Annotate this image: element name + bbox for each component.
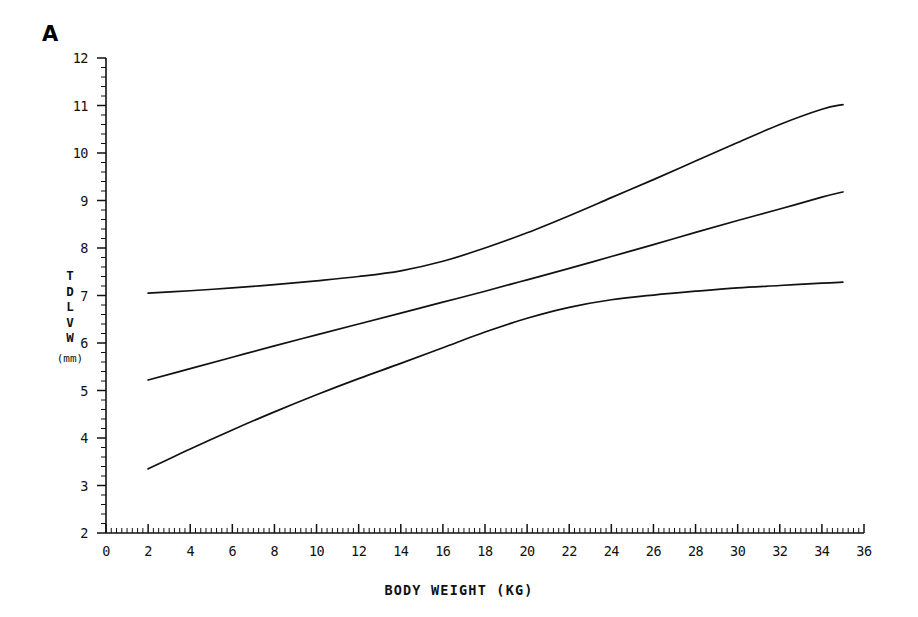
x-axis-title: BODY WEIGHT (KG) [0, 582, 918, 598]
x-axis-tick-label: 6 [212, 543, 252, 559]
x-axis-tick-label: 0 [86, 543, 126, 559]
plot-area [106, 58, 864, 533]
plot-svg [106, 58, 864, 533]
x-axis-tick-label: 34 [802, 543, 842, 559]
x-axis-tick-label: 22 [549, 543, 589, 559]
x-axis-tick-label: 26 [633, 543, 673, 559]
x-axis-tick-label: 2 [128, 543, 168, 559]
x-axis-tick-label: 12 [339, 543, 379, 559]
x-axis-tick-label: 18 [465, 543, 505, 559]
figure-panel-a: A T D L V W (mm) BODY WEIGHT (KG) 121110… [0, 0, 918, 617]
x-axis-tick-label: 28 [676, 543, 716, 559]
y-axis-tick-label: 7 [48, 288, 88, 304]
y-axis-tick-label: 2 [48, 525, 88, 541]
y-axis-title-char: T [49, 268, 91, 284]
x-axis-tick-label: 32 [760, 543, 800, 559]
y-axis-title-char: V [49, 315, 91, 331]
y-axis-unit: (mm) [49, 351, 91, 367]
x-axis-tick-label: 36 [844, 543, 884, 559]
x-axis-tick-label: 24 [591, 543, 631, 559]
y-axis-tick-label: 6 [48, 335, 88, 351]
y-axis-tick-label: 5 [48, 383, 88, 399]
x-axis-tick-label: 14 [381, 543, 421, 559]
x-axis-tick-label: 8 [254, 543, 294, 559]
y-axis-title: T D L V W (mm) [49, 268, 91, 366]
x-axis-tick-label: 10 [297, 543, 337, 559]
y-axis-tick-label: 3 [48, 478, 88, 494]
x-axis-tick-label: 20 [507, 543, 547, 559]
y-axis-tick-label: 8 [48, 240, 88, 256]
x-axis-tick-label: 30 [718, 543, 758, 559]
y-axis-tick-label: 10 [48, 145, 88, 161]
data-curve-upper [148, 105, 843, 294]
panel-label: A [42, 22, 58, 46]
y-axis-tick-label: 4 [48, 430, 88, 446]
y-axis-tick-label: 12 [48, 50, 88, 66]
x-axis-tick-label: 4 [170, 543, 210, 559]
y-axis-tick-label: 9 [48, 193, 88, 209]
data-curve-lower [148, 282, 843, 469]
x-axis-tick-label: 16 [423, 543, 463, 559]
y-axis-tick-label: 11 [48, 98, 88, 114]
